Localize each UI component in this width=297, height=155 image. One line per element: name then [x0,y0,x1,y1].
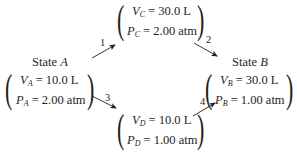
p-subscript: A [24,99,29,108]
p-symbol: P [127,133,135,147]
p-symbol: P [127,24,135,38]
p-value: = 2.00 atm [143,24,197,38]
state-a-volume: VA = 10.0 L [20,73,78,88]
state-a-box: ( ) VA = 10.0 L PA = 2.00 atm [6,72,93,112]
state-b-pressure: PB = 1.00 atm [215,93,285,108]
v-symbol: V [20,73,28,87]
v-symbol: V [132,113,140,127]
p-symbol: P [215,93,223,107]
state-a-prefix: State [32,55,57,69]
p-value: = 1.00 atm [144,133,198,147]
right-paren: ) [87,70,94,108]
state-d-box: ( ) VD = 10.0 L PD = 1.00 atm [118,112,203,152]
p-subscript: B [223,99,228,108]
v-value: = 10.0 L [149,113,192,127]
p-value: = 2.00 atm [32,93,86,107]
p-value: = 1.00 atm [231,93,285,107]
v-value: = 30.0 L [236,73,279,87]
v-subscript: C [140,10,145,19]
v-subscript: D [140,119,146,128]
state-c-volume: VC = 30.0 L [132,4,191,19]
right-paren: ) [286,70,293,108]
arrow-step-3 [92,96,116,108]
state-a-pressure: PA = 2.00 atm [16,93,86,108]
right-paren: ) [197,1,204,39]
state-a-letter: A [60,55,68,69]
state-c-pressure: PC = 2.00 atm [127,24,197,39]
left-paren: ( [117,1,124,39]
state-b-box: ( ) VB = 30.0 L PB = 1.00 atm [206,72,292,112]
left-paren: ( [117,110,124,148]
state-c-box: ( ) VC = 30.0 L PC = 2.00 atm [118,3,203,43]
state-d-volume: VD = 10.0 L [132,113,191,128]
v-symbol: V [132,4,140,18]
p-symbol: P [16,93,24,107]
left-paren: ( [205,70,212,108]
state-a-title: State A [22,55,78,70]
step-label-2: 2 [206,34,211,45]
v-subscript: A [28,79,33,88]
left-paren: ( [5,70,12,108]
right-paren: ) [197,110,204,148]
v-subscript: B [228,79,233,88]
state-b-title: State B [222,55,278,70]
step-label-3: 3 [105,92,110,103]
state-b-volume: VB = 30.0 L [220,73,278,88]
state-b-letter: B [260,55,268,69]
state-d-pressure: PD = 1.00 atm [127,133,197,148]
v-symbol: V [220,73,228,87]
state-b-prefix: State [232,55,257,69]
v-value: = 10.0 L [36,73,79,87]
v-value: = 30.0 L [148,4,191,18]
p-subscript: C [135,30,140,39]
step-label-1: 1 [100,37,105,48]
p-subscript: D [135,139,141,148]
